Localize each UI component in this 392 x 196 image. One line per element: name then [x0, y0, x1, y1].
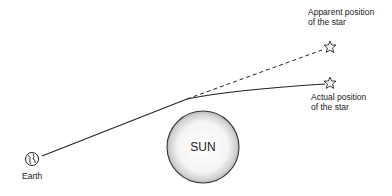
sun-label: SUN [190, 140, 215, 154]
apparent-star-label-line1: Apparent position [308, 7, 374, 17]
earth-globe-icon [26, 153, 39, 166]
apparent-direction-line [187, 50, 322, 99]
light-bending-diagram: SUN Apparent position of the star Actual… [0, 0, 392, 196]
earth-label: Earth [22, 171, 42, 181]
actual-star-label: Actual position of the star [311, 92, 366, 112]
actual-star-label-line1: Actual position [311, 92, 366, 102]
apparent-star-label: Apparent position of the star [308, 7, 374, 27]
apparent-star-icon [324, 41, 336, 52]
actual-star-label-line2: of the star [311, 102, 366, 112]
apparent-star-label-line2: of the star [308, 17, 374, 27]
actual-star-icon [324, 77, 336, 88]
